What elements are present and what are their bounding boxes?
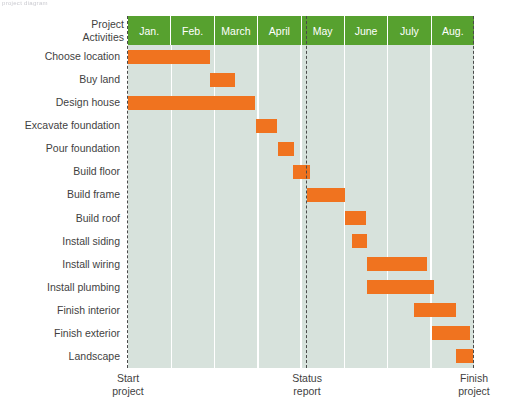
task-label: Install plumbing bbox=[0, 282, 120, 293]
gantt-bar[interactable] bbox=[128, 50, 210, 64]
milestone-label-line2: project bbox=[429, 385, 505, 398]
month-header-cell-july: July bbox=[388, 16, 431, 45]
milestone-line-status-report bbox=[306, 16, 307, 368]
month-header-cell-april: April bbox=[258, 16, 301, 45]
month-header-cell-aug: Aug. bbox=[432, 16, 474, 45]
gridline-vertical bbox=[257, 45, 259, 368]
gantt-bar[interactable] bbox=[414, 303, 456, 317]
task-label: Build frame bbox=[0, 189, 120, 200]
gantt-bar[interactable] bbox=[128, 96, 255, 110]
task-label: Build roof bbox=[0, 213, 120, 224]
milestone-label-status-report: Statusreport bbox=[262, 372, 352, 397]
gridline-vertical bbox=[344, 45, 346, 368]
milestone-line-finish-project bbox=[473, 16, 474, 368]
gantt-chart: Project Activities Jan.Feb.MarchAprilMay… bbox=[0, 0, 505, 404]
gantt-bar[interactable] bbox=[432, 326, 470, 340]
corner-header-line2: Activities bbox=[0, 31, 124, 44]
gridline-vertical bbox=[387, 45, 389, 368]
task-label: Pour foundation bbox=[0, 143, 120, 154]
task-label: Excavate foundation bbox=[0, 120, 120, 131]
axis-corner-header: Project Activities bbox=[0, 18, 124, 43]
gantt-plot-area bbox=[128, 45, 474, 368]
month-header-cell-june: June bbox=[345, 16, 388, 45]
gantt-bar[interactable] bbox=[307, 188, 345, 202]
gantt-bar[interactable] bbox=[210, 73, 235, 87]
gridline-vertical bbox=[214, 45, 216, 368]
milestone-label-line1: Status bbox=[262, 372, 352, 385]
task-label: Design house bbox=[0, 97, 120, 108]
milestone-label-finish-project: Finishproject bbox=[429, 372, 505, 397]
task-label: Finish interior bbox=[0, 305, 120, 316]
task-label: Install siding bbox=[0, 236, 120, 247]
corner-header-line1: Project bbox=[0, 18, 124, 31]
gridline-vertical bbox=[430, 45, 432, 368]
milestone-line-start-project bbox=[127, 16, 128, 368]
gantt-bar[interactable] bbox=[293, 165, 310, 179]
milestone-label-start-project: Startproject bbox=[83, 372, 173, 397]
gantt-bar[interactable] bbox=[352, 234, 367, 248]
month-header-cell-feb: Feb. bbox=[171, 16, 214, 45]
month-header-cell-may: May bbox=[302, 16, 345, 45]
milestone-label-line1: Finish bbox=[429, 372, 505, 385]
task-label: Landscape bbox=[0, 351, 120, 362]
task-label: Build floor bbox=[0, 166, 120, 177]
gantt-bar[interactable] bbox=[345, 211, 366, 225]
gantt-bar[interactable] bbox=[367, 257, 427, 271]
gantt-bar[interactable] bbox=[256, 119, 277, 133]
milestone-label-line1: Start bbox=[83, 372, 173, 385]
milestone-label-line2: report bbox=[262, 385, 352, 398]
month-header-cell-march: March bbox=[215, 16, 258, 45]
gantt-bar[interactable] bbox=[456, 349, 473, 363]
gridline-vertical bbox=[171, 45, 173, 368]
task-label: Finish exterior bbox=[0, 328, 120, 339]
task-label: Choose location bbox=[0, 51, 120, 62]
gantt-bar[interactable] bbox=[278, 142, 294, 156]
gantt-bar[interactable] bbox=[367, 280, 434, 294]
gridline-vertical bbox=[300, 45, 302, 368]
month-header-cell-jan: Jan. bbox=[128, 16, 171, 45]
task-label-column: Choose locationBuy landDesign houseExcav… bbox=[0, 45, 124, 368]
milestone-label-line2: project bbox=[83, 385, 173, 398]
task-label: Install wiring bbox=[0, 259, 120, 270]
task-label: Buy land bbox=[0, 74, 120, 85]
month-header-row: Jan.Feb.MarchAprilMayJuneJulyAug. bbox=[128, 16, 474, 45]
